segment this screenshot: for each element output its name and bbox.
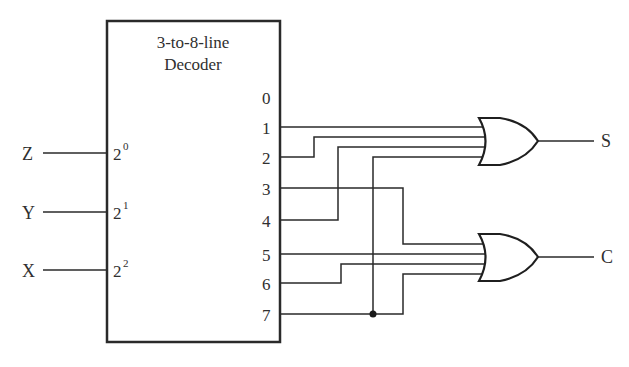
input-x-weight-base: 2 <box>113 262 122 281</box>
wire-out3-to-c <box>280 188 486 244</box>
decoder-title-line2: Decoder <box>164 55 222 74</box>
wire-out4-to-s <box>280 147 488 220</box>
output-c-label: C <box>601 247 613 267</box>
output-label-7: 7 <box>262 306 271 325</box>
or-gate-s <box>479 118 538 165</box>
output-label-0: 0 <box>262 89 271 108</box>
input-y-weight-exp: 1 <box>123 199 129 211</box>
junction-dot <box>370 311 377 318</box>
input-z-weight-exp: 0 <box>123 140 129 152</box>
input-y-label: Y <box>22 203 35 223</box>
input-x-label: X <box>22 261 35 281</box>
output-label-6: 6 <box>262 275 271 294</box>
output-s-label: S <box>601 131 611 151</box>
output-label-4: 4 <box>262 212 271 231</box>
decoder-title-line1: 3-to-8-line <box>157 33 230 52</box>
wire-out7-to-c <box>280 274 486 314</box>
input-z-label: Z <box>22 144 33 164</box>
output-label-3: 3 <box>262 180 271 199</box>
output-label-5: 5 <box>262 246 271 265</box>
decoder-circuit-diagram: 3-to-8-line Decoder Z 2 0 Y 2 1 X 2 2 0 … <box>0 0 629 367</box>
input-x-weight-exp: 2 <box>123 257 129 269</box>
input-z-weight-base: 2 <box>113 145 122 164</box>
or-gate-c <box>479 234 538 281</box>
input-y-weight-base: 2 <box>113 204 122 223</box>
wire-out7-to-s <box>373 157 486 314</box>
output-label-1: 1 <box>262 119 271 138</box>
output-label-2: 2 <box>262 149 271 168</box>
